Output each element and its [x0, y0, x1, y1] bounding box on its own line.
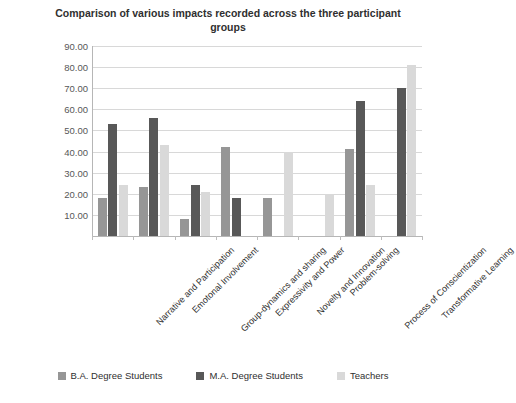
y-axis-tick-label: 40.00 — [26, 146, 88, 157]
bar — [366, 185, 375, 236]
bar — [160, 145, 169, 236]
chart-title: Comparison of various impacts recorded a… — [43, 6, 413, 34]
y-axis-tick-label: 70.00 — [26, 83, 88, 94]
legend-item[interactable]: B.A. Degree Students — [58, 370, 163, 381]
x-axis-category-label: Novelty and Innovation — [314, 245, 386, 317]
bar — [325, 194, 334, 236]
bar — [139, 187, 148, 236]
y-axis-tick-label: 20.00 — [26, 188, 88, 199]
bar — [108, 124, 117, 236]
legend-label: B.A. Degree Students — [71, 370, 163, 381]
bar — [263, 198, 272, 236]
x-axis-tickmark — [340, 236, 341, 240]
bar — [221, 147, 230, 236]
x-axis-tickmark — [381, 236, 382, 240]
bar — [149, 118, 158, 236]
bar — [356, 101, 365, 236]
x-axis-tickmark — [133, 236, 134, 240]
y-axis-ticks: 90.0080.0070.0060.0050.0040.0030.0020.00… — [24, 46, 88, 237]
x-axis-tickmark — [175, 236, 176, 240]
x-axis-tickmark — [92, 236, 93, 240]
x-axis-tickmark — [216, 236, 217, 240]
legend-item[interactable]: M.A. Degree Students — [196, 370, 302, 381]
chart-legend: B.A. Degree StudentsM.A. Degree Students… — [0, 370, 446, 381]
legend-label: Teachers — [350, 370, 389, 381]
x-axis-tickmark — [257, 236, 258, 240]
y-axis-tick-label: 10.00 — [26, 209, 88, 220]
bar — [397, 88, 406, 236]
bar — [191, 185, 200, 236]
bar — [232, 198, 241, 236]
y-axis-tick-label: 90.00 — [26, 41, 88, 52]
legend-item[interactable]: Teachers — [337, 370, 389, 381]
y-axis-tick-label: 50.00 — [26, 125, 88, 136]
bar — [407, 65, 416, 236]
bar — [284, 152, 293, 236]
bars-layer — [92, 46, 422, 236]
y-axis-tick-label: 60.00 — [26, 104, 88, 115]
y-axis-tick-label: 30.00 — [26, 167, 88, 178]
bar — [180, 219, 189, 236]
bar — [345, 149, 354, 236]
x-axis-tickmark — [298, 236, 299, 240]
legend-swatch-icon — [196, 372, 204, 380]
y-axis-tick-label: 80.00 — [26, 62, 88, 73]
legend-swatch-icon — [58, 372, 66, 380]
legend-label: M.A. Degree Students — [209, 370, 302, 381]
x-axis-tickmark — [422, 236, 423, 240]
legend-swatch-icon — [337, 372, 345, 380]
bar — [119, 185, 128, 236]
bar — [201, 192, 210, 236]
bar — [98, 198, 107, 236]
